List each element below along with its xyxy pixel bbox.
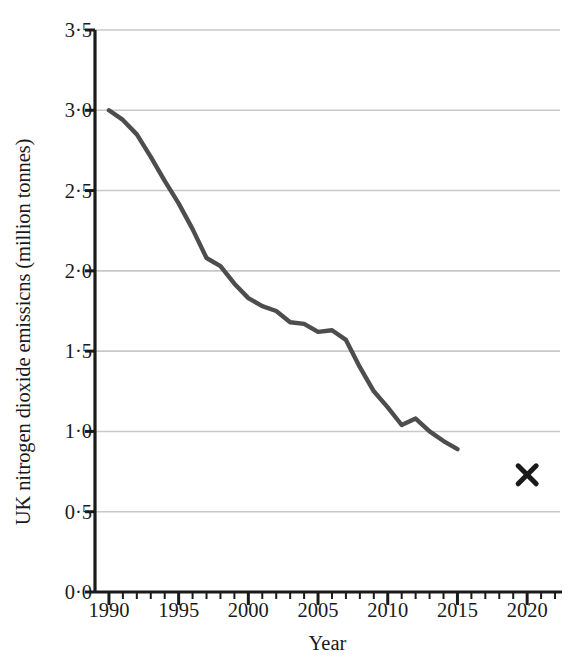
x-axis-tick-label: 2015 <box>437 600 478 621</box>
data-marker-2020 <box>518 466 536 484</box>
x-axis-tick-label: 2000 <box>228 600 269 621</box>
x-axis-tick-label: 2005 <box>298 600 339 621</box>
data-point-marker-x <box>518 466 536 484</box>
x-axis-tick-label: 1990 <box>88 600 129 621</box>
x-axis-title: Year <box>95 632 560 655</box>
chart-figure: UK nitrogen dioxide emissicns (million t… <box>0 0 571 664</box>
chart-plot-area <box>0 0 571 664</box>
gridlines <box>95 30 560 512</box>
data-line-series-0 <box>109 110 458 449</box>
x-axis-tick-label: 2010 <box>367 600 408 621</box>
x-axis-tick-label: 1995 <box>158 600 199 621</box>
x-axis-tick-label: 2020 <box>507 600 548 621</box>
